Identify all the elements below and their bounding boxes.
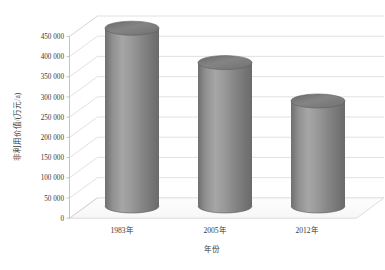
bar-2012[interactable] xyxy=(291,94,345,213)
y-tick-label-150000: 150 000 xyxy=(41,154,65,162)
y-tick-label-0: 0 xyxy=(60,215,64,223)
bar-2005[interactable] xyxy=(198,56,252,213)
x-tick-label-1983: 1983年 xyxy=(110,225,133,235)
y-tick-label-250000: 250 000 xyxy=(41,114,65,122)
y-tick-label-400000: 400 000 xyxy=(41,53,65,61)
bar-top-ellipse-2012 xyxy=(291,94,345,108)
y-tick-label-50000: 50 000 xyxy=(44,195,64,203)
y-tick-label-100000: 100 000 xyxy=(41,174,65,182)
y-tick-label-300000: 300 000 xyxy=(41,94,65,102)
y-tick-label-200000: 200 000 xyxy=(41,134,65,142)
bar-chart-3d: 450 000 400 000 350 000 300 000 250 000 … xyxy=(0,0,385,270)
y-axis-title: 非利用价值/(万元/a) xyxy=(12,92,22,161)
x-axis-title: 年份 xyxy=(204,244,220,254)
bar-body-2012 xyxy=(291,101,345,213)
bar-1983[interactable] xyxy=(105,21,159,213)
y-tick-label-350000: 350 000 xyxy=(41,73,65,81)
bar-body-1983 xyxy=(105,28,159,213)
bar-top-ellipse-2005 xyxy=(198,56,252,70)
chart-container: 450 000 400 000 350 000 300 000 250 000 … xyxy=(0,0,385,270)
y-tick-label-450000: 450 000 xyxy=(41,33,65,41)
x-tick-label-2012: 2012年 xyxy=(295,225,318,235)
bar-top-ellipse-1983 xyxy=(105,21,159,35)
x-tick-label-2005: 2005年 xyxy=(203,225,226,235)
bar-body-2005 xyxy=(198,63,252,213)
